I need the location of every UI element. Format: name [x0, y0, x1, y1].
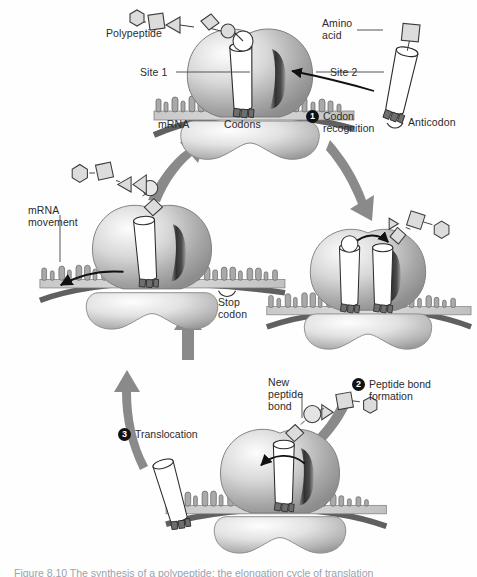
amino-acid-label: Amino acid	[322, 17, 352, 41]
amino-acid-shape	[401, 23, 420, 42]
step-2-badge: 2	[352, 378, 365, 391]
new-peptide-bond-label: New peptide bond	[268, 376, 303, 412]
site2-label: Site 2	[330, 66, 357, 78]
step-1: 1 Codon recognition	[306, 110, 374, 134]
step-3-badge: 3	[118, 428, 131, 441]
mrna-movement-label: mRNA movement	[28, 204, 78, 228]
anticodon-label: Anticodon	[408, 116, 456, 128]
mrna-label: mRNA	[158, 118, 189, 130]
step-1-badge: 1	[306, 110, 319, 123]
codons-label: Codons	[224, 118, 261, 130]
site1-label: Site 1	[140, 66, 167, 78]
right-ribosome	[267, 211, 471, 349]
anticodon-brace	[387, 123, 403, 128]
step-3: 3 Translocation	[118, 428, 198, 441]
step-3-label: Translocation	[135, 428, 198, 440]
step-2-label: Peptide bond formation	[369, 378, 431, 402]
figure-caption: Figure 8.10 The synthesis of a polypepti…	[14, 567, 464, 577]
bottom-ribosome	[166, 392, 386, 553]
figure-canvas: Polypeptide Amino acid Site 1 Site 2 mRN…	[0, 0, 477, 577]
step-1-label: Codon recognition	[323, 110, 374, 134]
translation-cycle-diagram	[0, 0, 477, 577]
stop-codon-label: Stop codon	[218, 296, 247, 320]
incoming-trna	[382, 21, 424, 123]
polypeptide-label: Polypeptide	[106, 27, 162, 39]
step-2: 2 Peptide bond formation	[352, 378, 431, 402]
